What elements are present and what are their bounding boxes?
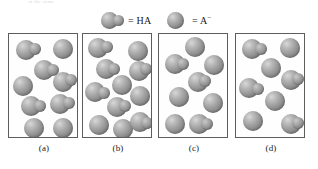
- sphere-main: [204, 55, 224, 75]
- sphere-main: [261, 58, 281, 78]
- top-clipped-caption: of the same: [28, 0, 54, 5]
- sphere-attached-h: [201, 118, 213, 130]
- sphere-main: [53, 118, 73, 138]
- sphere-attached-h: [140, 63, 152, 75]
- panel-a: (a): [8, 33, 80, 169]
- sphere-attached-h: [255, 43, 267, 55]
- sphere-attached-h: [113, 15, 124, 26]
- sphere-attached-h: [252, 83, 264, 95]
- sphere-attached-h: [141, 117, 152, 129]
- sphere-attached-h: [63, 97, 75, 109]
- sphere-main: [243, 111, 263, 131]
- sphere-main: [130, 86, 150, 106]
- sphere-attached-h: [108, 63, 120, 75]
- legend-item-a-minus: = A−: [165, 9, 212, 31]
- a-minus-ion-icon: [165, 11, 191, 29]
- sphere-attached-h: [292, 117, 304, 129]
- sphere-main: [167, 12, 184, 29]
- sphere-attached-h: [119, 100, 131, 112]
- sphere-main: [89, 115, 109, 135]
- sphere-main: [53, 39, 73, 59]
- sphere-main: [112, 75, 132, 95]
- sphere-main: [169, 87, 189, 107]
- legend-label-ha: = HA: [128, 15, 151, 26]
- panel-label-b: (b): [82, 143, 154, 153]
- sphere-attached-h: [292, 73, 304, 85]
- sphere-attached-h: [177, 58, 189, 70]
- sphere-attached-h: [34, 100, 46, 112]
- sphere-attached-h: [65, 74, 77, 86]
- panel-box-d: [235, 33, 305, 138]
- sphere-main: [13, 76, 33, 96]
- panel-label-c: (c): [158, 143, 230, 153]
- panel-box-c: [158, 33, 228, 138]
- panel-c: (c): [158, 33, 230, 169]
- panel-box-b: [82, 33, 152, 138]
- acid-dissociation-figure: of the same = HA = A− (a)(b)(c)(d): [0, 0, 318, 169]
- sphere-attached-h: [29, 43, 41, 55]
- sphere-attached-h: [199, 75, 211, 87]
- sphere-main: [128, 41, 148, 61]
- panel-box-a: [8, 33, 78, 138]
- legend-label-a-minus: = A−: [192, 15, 212, 26]
- sphere-attached-h: [98, 87, 110, 99]
- panel-label-a: (a): [8, 143, 80, 153]
- ha-molecule-icon: [101, 11, 127, 29]
- sphere-main: [265, 91, 285, 111]
- panel-row: (a)(b)(c)(d): [0, 33, 318, 169]
- sphere-main: [280, 38, 300, 58]
- panel-label-d: (d): [235, 143, 307, 153]
- sphere-main: [185, 37, 205, 57]
- sphere-main: [24, 118, 44, 138]
- sphere-main: [203, 93, 223, 113]
- panel-d: (d): [235, 33, 307, 169]
- legend-item-ha: = HA: [101, 9, 151, 31]
- panel-b: (b): [82, 33, 154, 169]
- legend: = HA = A−: [0, 9, 318, 31]
- sphere-attached-h: [101, 41, 113, 53]
- sphere-main: [165, 114, 185, 134]
